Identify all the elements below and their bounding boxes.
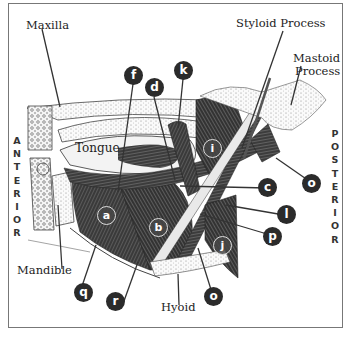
badge-r: r [106, 292, 125, 311]
badge-d: d [145, 78, 164, 97]
badge-o-top: o [302, 174, 321, 193]
badge-l: l [277, 205, 296, 224]
badge-q: q [74, 283, 93, 302]
label-maxilla: Maxilla [26, 20, 69, 32]
badge-i: i [203, 139, 222, 158]
label-mandible: Mandible [17, 265, 72, 277]
badge-f: f [124, 66, 143, 85]
label-hyoid: Hyoid [161, 302, 196, 314]
badge-p: p [263, 227, 282, 246]
badge-b: b [149, 218, 168, 237]
badge-c: c [258, 178, 277, 197]
badge-j: j [213, 236, 232, 255]
label-tongue: Tongue [75, 142, 120, 154]
label-styloid-process: Styloid Process [236, 18, 326, 30]
badge-k: k [174, 61, 193, 80]
badge-a: a [97, 206, 116, 225]
label-mastoid-line1: Mastoid [293, 53, 340, 65]
label-mastoid-line2: Process [295, 66, 340, 78]
label-anterior: A N T E R I O R [12, 134, 22, 240]
label-posterior: P O S T E R I O R [330, 127, 340, 246]
badge-o-bottom: o [204, 287, 223, 306]
